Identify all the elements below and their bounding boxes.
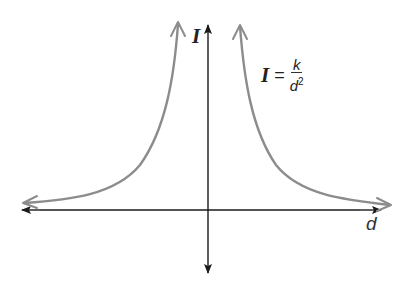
x-axis-label: d [366,213,377,235]
denominator-base: d [290,77,298,94]
fraction-numerator: k [291,57,303,73]
curve-right-branch [240,26,390,205]
y-axis-label: I [192,24,200,49]
denominator-exponent: 2 [298,76,304,87]
equation-lhs: I [261,63,269,88]
equation-label: I = k d2 [261,57,304,94]
inverse-square-graph [0,0,403,302]
fraction-denominator: d2 [290,73,304,94]
equation-equals: = [274,65,285,86]
curve-left-branch [24,24,178,203]
equation-fraction: k d2 [290,57,304,94]
